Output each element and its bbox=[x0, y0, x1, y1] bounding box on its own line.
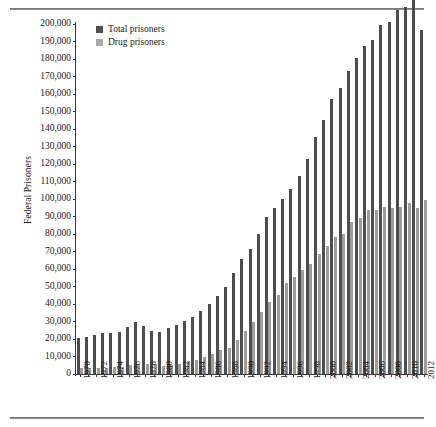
x-tick-mark bbox=[80, 374, 81, 377]
bar-group bbox=[404, 24, 412, 374]
bar-total-prisoners bbox=[273, 208, 276, 374]
y-tick-label: 70,000 bbox=[45, 245, 71, 258]
x-tick-mark bbox=[162, 374, 163, 377]
bar-group bbox=[396, 24, 404, 374]
bar-group bbox=[101, 24, 109, 374]
bar-group bbox=[265, 24, 273, 374]
bar-group bbox=[191, 24, 199, 374]
bar-series-container bbox=[76, 24, 428, 374]
bar-drug-prisoners bbox=[326, 246, 329, 374]
bar-total-prisoners bbox=[281, 199, 284, 374]
bar-total-prisoners bbox=[257, 234, 260, 374]
bar-total-prisoners bbox=[420, 30, 423, 374]
bar-group bbox=[142, 24, 150, 374]
bar-group bbox=[216, 24, 224, 374]
y-tick-label: 110,000 bbox=[40, 175, 71, 188]
y-tick-label: 80,000 bbox=[45, 227, 71, 240]
bar-group bbox=[118, 24, 126, 374]
x-tick-mark bbox=[219, 374, 220, 377]
bar-drug-prisoners bbox=[342, 234, 345, 374]
bar-drug-prisoners bbox=[350, 222, 353, 374]
y-tick-label: 60,000 bbox=[45, 262, 71, 275]
chart-legend: Total prisoners Drug prisoners bbox=[96, 23, 165, 49]
y-tick-label: 150,000 bbox=[40, 105, 71, 118]
y-tick-label: 10,000 bbox=[45, 350, 71, 363]
bar-group bbox=[232, 24, 240, 374]
y-tick-label: 170,000 bbox=[40, 70, 71, 83]
bar-drug-prisoners bbox=[293, 277, 296, 374]
bar-total-prisoners bbox=[347, 71, 350, 374]
y-tick-label: 100,000 bbox=[40, 192, 71, 205]
bar-group bbox=[93, 24, 101, 374]
bar-group bbox=[85, 24, 93, 374]
bar-total-prisoners bbox=[322, 120, 325, 374]
y-tick-label: 90,000 bbox=[45, 210, 71, 223]
y-tick-label: 180,000 bbox=[40, 52, 71, 65]
bar-total-prisoners bbox=[396, 10, 399, 374]
bar-group bbox=[134, 24, 142, 374]
legend-item-drug-prisoners: Drug prisoners bbox=[96, 36, 165, 49]
x-tick-mark bbox=[145, 374, 146, 377]
x-tick-mark bbox=[186, 374, 187, 377]
x-tick-mark bbox=[399, 374, 400, 377]
bar-total-prisoners bbox=[306, 159, 309, 374]
bar-group bbox=[150, 24, 158, 374]
bar-total-prisoners bbox=[339, 88, 342, 374]
bar-drug-prisoners bbox=[359, 218, 362, 374]
bar-group bbox=[371, 24, 379, 374]
x-tick-mark bbox=[285, 374, 286, 377]
bar-drug-prisoners bbox=[301, 270, 304, 374]
x-tick-mark bbox=[325, 374, 326, 377]
x-tick-mark bbox=[211, 374, 212, 377]
y-axis-ticks: 010,00020,00030,00040,00050,00060,00070,… bbox=[0, 24, 76, 374]
bar-total-prisoners bbox=[289, 189, 292, 374]
bar-group bbox=[249, 24, 257, 374]
bar-group bbox=[412, 24, 420, 374]
bar-drug-prisoners bbox=[399, 207, 402, 374]
bar-total-prisoners bbox=[265, 217, 268, 374]
bar-drug-prisoners bbox=[334, 237, 337, 374]
x-tick-mark bbox=[334, 374, 335, 377]
x-tick-mark bbox=[317, 374, 318, 377]
x-tick-mark bbox=[178, 374, 179, 377]
bar-group bbox=[388, 24, 396, 374]
bar-group bbox=[289, 24, 297, 374]
bar-total-prisoners bbox=[93, 335, 96, 374]
bar-group bbox=[167, 24, 175, 374]
x-tick-mark bbox=[407, 374, 408, 377]
top-divider-rule bbox=[10, 8, 424, 10]
bar-group bbox=[158, 24, 166, 374]
y-tick-label: 200,000 bbox=[40, 17, 71, 30]
bar-total-prisoners bbox=[175, 325, 178, 374]
x-tick-mark bbox=[424, 374, 425, 377]
x-tick-mark bbox=[104, 374, 105, 377]
x-tick-mark bbox=[129, 374, 130, 377]
bar-total-prisoners bbox=[412, 0, 415, 374]
bar-group bbox=[77, 24, 85, 374]
bar-total-prisoners bbox=[379, 25, 382, 374]
y-tick-label: 50,000 bbox=[45, 280, 71, 293]
y-tick-label: 40,000 bbox=[45, 297, 71, 310]
bar-drug-prisoners bbox=[367, 210, 370, 374]
bar-group bbox=[314, 24, 322, 374]
bar-total-prisoners bbox=[371, 40, 374, 374]
x-tick-mark bbox=[358, 374, 359, 377]
legend-label: Drug prisoners bbox=[108, 36, 165, 49]
bar-drug-prisoners bbox=[309, 264, 312, 374]
bar-total-prisoners bbox=[249, 249, 252, 374]
x-tick-mark bbox=[88, 374, 89, 377]
bar-group bbox=[298, 24, 306, 374]
bar-total-prisoners bbox=[404, 7, 407, 374]
bar-total-prisoners bbox=[109, 333, 112, 374]
y-tick-label: 0 bbox=[66, 367, 71, 380]
bar-group bbox=[330, 24, 338, 374]
legend-swatch-icon bbox=[96, 26, 103, 33]
x-tick-mark bbox=[235, 374, 236, 377]
y-tick-label: 30,000 bbox=[45, 315, 71, 328]
bar-group bbox=[420, 24, 428, 374]
x-tick-mark bbox=[342, 374, 343, 377]
bar-group bbox=[240, 24, 248, 374]
bar-drug-prisoners bbox=[318, 254, 321, 374]
bar-drug-prisoners bbox=[408, 203, 411, 374]
bar-total-prisoners bbox=[330, 99, 333, 374]
